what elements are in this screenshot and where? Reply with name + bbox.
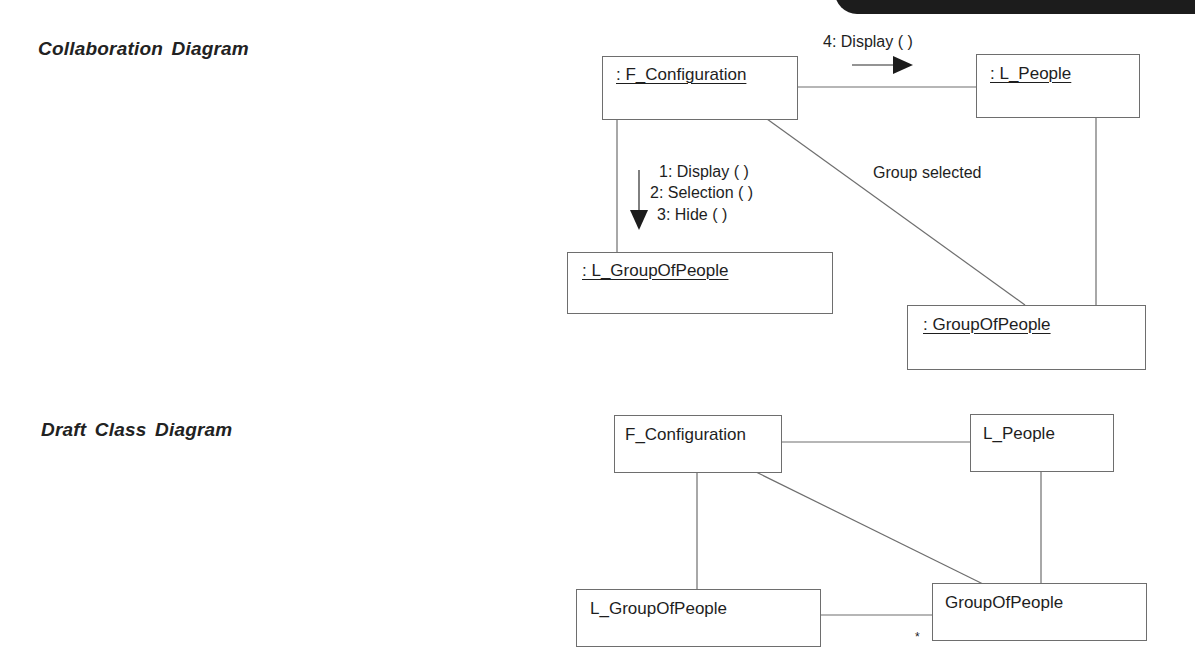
object-l-group-of-people-label: : L_GroupOfPeople [582,261,728,281]
object-l-people: : L_People [976,54,1140,118]
message-arrow-right-icon [852,56,913,74]
multiplicity-many: * [915,630,920,644]
object-group-of-people-label: : GroupOfPeople [923,315,1051,335]
class-f-configuration: F_Configuration [614,415,782,473]
message-3-label: 3: Hide ( ) [657,205,727,225]
object-l-people-label: : L_People [990,64,1071,84]
class-group-of-people-label: GroupOfPeople [945,593,1063,613]
assoc-config-group [756,472,983,584]
object-f-configuration-label: : F_Configuration [616,65,746,85]
class-group-of-people: GroupOfPeople [932,583,1147,641]
class-l-group-of-people-label: L_GroupOfPeople [590,599,727,619]
message-2-label: 2: Selection ( ) [650,183,753,203]
message-4-label: 4: Display ( ) [823,32,913,52]
class-f-configuration-label: F_Configuration [625,425,746,445]
message-1-label: 1: Display ( ) [659,162,749,182]
object-group-of-people: : GroupOfPeople [907,305,1146,370]
message-arrow-down-icon [630,170,648,230]
object-l-group-of-people: : L_GroupOfPeople [567,252,833,314]
object-f-configuration: : F_Configuration [602,56,798,120]
class-l-group-of-people: L_GroupOfPeople [576,589,821,647]
class-l-people: L_People [970,414,1114,472]
link-label-group-selected: Group selected [873,163,982,183]
class-l-people-label: L_People [983,424,1055,444]
